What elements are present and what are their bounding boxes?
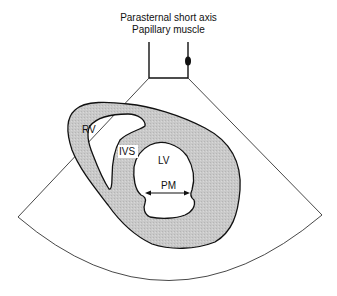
pm-label: PM [161, 180, 176, 191]
ivs-label: IVS [119, 146, 135, 157]
echo-diagram: RV IVS LV PM [0, 0, 337, 296]
transducer-marker-icon [185, 57, 191, 66]
transducer-icon [149, 42, 188, 78]
rv-label: RV [82, 124, 96, 135]
pm-double-arrow-icon [145, 191, 190, 196]
lv-label: LV [158, 155, 170, 166]
